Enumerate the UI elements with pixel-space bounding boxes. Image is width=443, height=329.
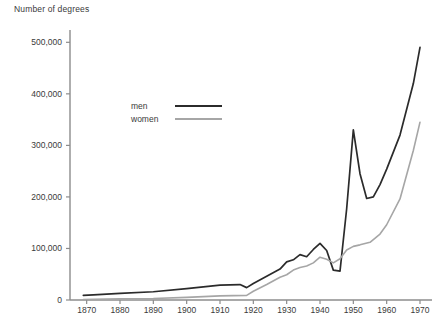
legend-swatch-men xyxy=(175,105,222,107)
degrees-line-chart: Number of degrees 0100,000200,000300,000… xyxy=(0,0,443,329)
series-line-women xyxy=(83,122,420,299)
legend-label-men: men xyxy=(131,101,175,111)
chart-legend: men women xyxy=(131,99,222,125)
legend-item-women: women xyxy=(131,112,222,125)
plot-area xyxy=(0,0,443,329)
legend-swatch-women xyxy=(175,118,222,120)
series-line-men xyxy=(83,47,420,295)
legend-label-women: women xyxy=(131,114,175,124)
legend-item-men: men xyxy=(131,99,222,112)
